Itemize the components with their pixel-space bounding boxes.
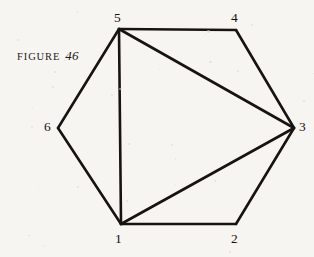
paper-speck (175, 184, 176, 185)
edge-layer (58, 29, 294, 224)
graph-vertex-6 (55, 125, 61, 131)
paper-speck (28, 235, 29, 236)
paper-speck (32, 108, 33, 109)
paper-speck (122, 46, 123, 47)
figure-caption-number: 46 (65, 48, 78, 63)
figure-caption: FIGURE46 (17, 47, 79, 63)
node-layer (55, 26, 297, 227)
paper-speck (77, 186, 78, 187)
figure-canvas: FIGURE46 5 4 3 2 1 6 (0, 0, 314, 257)
vertex-label-4: 4 (231, 11, 238, 25)
paper-speck (17, 39, 19, 41)
paper-speck (303, 100, 305, 102)
paper-speck (31, 126, 33, 128)
graph-edge-1-3 (121, 128, 294, 224)
paper-speck (54, 71, 56, 73)
graph-edge-5-1 (119, 29, 121, 224)
graph-vertex-2 (233, 221, 239, 227)
paper-speck (214, 180, 215, 181)
graph-edge-4-3 (236, 30, 294, 128)
paper-speck (90, 183, 91, 184)
vertex-label-3: 3 (299, 120, 306, 134)
graph-vertex-4 (233, 27, 239, 33)
paper-speck (251, 24, 253, 26)
paper-speck (44, 245, 46, 247)
vertex-label-1: 1 (115, 232, 122, 246)
graph-vertex-1 (118, 221, 124, 227)
paper-speck (126, 200, 128, 202)
graph-vertex-5 (116, 26, 122, 32)
paper-speck (313, 73, 314, 74)
paper-speck (111, 94, 113, 96)
paper-speck (159, 69, 160, 70)
paper-speck (207, 30, 209, 32)
graph-vertex-3 (291, 125, 297, 131)
vertex-label-5: 5 (114, 11, 121, 25)
paper-speck (236, 242, 238, 244)
graph-edge-1-6 (58, 128, 121, 224)
graph-edge-3-2 (236, 128, 294, 224)
paper-speck (209, 61, 211, 63)
paper-speck (119, 88, 121, 90)
graph-edge-6-5 (58, 29, 119, 128)
vertex-label-6: 6 (44, 120, 51, 134)
graph-edge-5-4 (119, 29, 236, 30)
paper-speck (214, 244, 215, 245)
figure-caption-word: FIGURE (17, 51, 60, 62)
graph-edge-5-3 (119, 29, 294, 128)
